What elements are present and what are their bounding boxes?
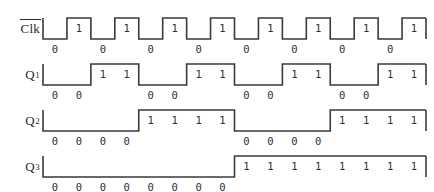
signal-row-clk: Clk0101010101010101 [0, 6, 434, 52]
signal-label-text: Q [25, 67, 35, 83]
signal-label-clk: Clk [6, 6, 40, 52]
waveform-q3 [40, 144, 434, 190]
signal-label-q3: Q3 [6, 144, 40, 190]
waveform-path [43, 110, 426, 131]
waveform-q1 [40, 52, 434, 98]
waveform-path [43, 156, 426, 177]
waveform-path [43, 64, 426, 85]
waveform-clk [40, 6, 434, 52]
signal-label-text: Q [25, 113, 35, 129]
signal-label-text: Clk [21, 21, 40, 37]
waveform-q2 [40, 98, 434, 144]
signal-row-q3: Q30000000011111111 [0, 144, 434, 190]
waveform-path [43, 18, 426, 39]
timing-diagram: Clk0101010101010101Q10011001100110011Q20… [0, 0, 434, 192]
signal-row-q1: Q10011001100110011 [0, 52, 434, 98]
signal-row-q2: Q20000111100001111 [0, 98, 434, 144]
signal-label-q1: Q1 [6, 52, 40, 98]
signal-label-q2: Q2 [6, 98, 40, 144]
signal-label-text: Q [25, 159, 35, 175]
